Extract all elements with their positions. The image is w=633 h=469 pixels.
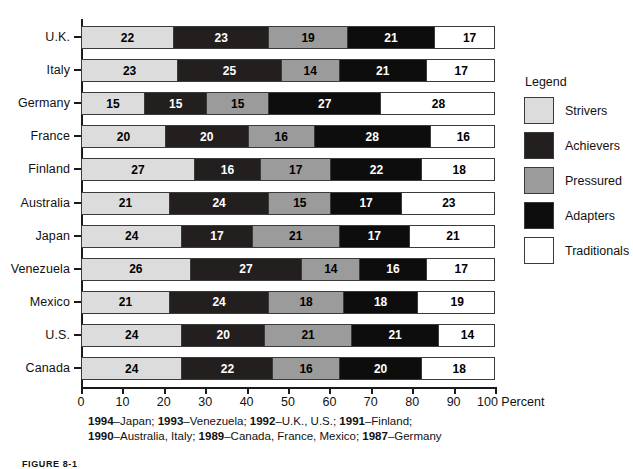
footnote-line-2: 1990–Australia, Italy; 1989–Canada, Fran…	[88, 429, 558, 444]
bar-segment-pressured: 16	[248, 126, 314, 147]
bar-segment-strivers: 21	[82, 193, 169, 214]
stacked-bar: 2420212114	[81, 324, 495, 347]
footnote-text: –Germany	[388, 430, 442, 442]
stacked-bar: 2422162018	[81, 357, 495, 380]
category-label: Germany	[18, 96, 70, 110]
bar-segment-achievers: 20	[181, 325, 264, 346]
stacked-bar: 2223192117	[81, 26, 495, 49]
bar-segment-traditionals: 18	[421, 358, 495, 379]
bar-segment-traditionals: 21	[409, 226, 495, 247]
footnote-text: –Australia, Italy;	[114, 430, 199, 442]
bar-segment-pressured: 17	[260, 159, 330, 180]
y-axis-tick	[74, 168, 81, 170]
category-label: Italy	[47, 63, 70, 77]
footnote-year: 1993	[158, 415, 184, 427]
y-axis-tick	[74, 102, 81, 104]
x-axis-tick-label: 40	[240, 395, 254, 409]
bar-segment-strivers: 15	[82, 93, 144, 114]
bar-segment-traditionals: 14	[438, 325, 495, 346]
bar-segment-pressured: 16	[272, 358, 338, 379]
stacked-bar: 2325142117	[81, 59, 495, 82]
bar-segment-adapters: 21	[351, 325, 438, 346]
bar-segment-adapters: 18	[343, 292, 418, 313]
x-axis-tick-label: 30	[198, 395, 212, 409]
stacked-bar: 2020162816	[81, 125, 495, 148]
bar-segment-adapters: 17	[339, 226, 409, 247]
bar-segment-strivers: 23	[82, 60, 177, 81]
bar-segment-adapters: 28	[314, 126, 430, 147]
bar-segment-strivers: 24	[82, 226, 181, 247]
x-axis-tick-label: 100 Percent	[477, 395, 544, 409]
x-axis-tick-label: 0	[78, 395, 85, 409]
category-label: France	[30, 129, 70, 143]
bar-segment-pressured: 21	[264, 325, 351, 346]
bar-segment-traditionals: 17	[426, 60, 495, 81]
footnote-text: –Japan;	[114, 415, 158, 427]
x-axis-tick	[247, 387, 249, 394]
y-axis-tick	[74, 235, 81, 237]
stacked-bar: 2124151723	[81, 192, 495, 215]
footnote-year: 1994	[88, 415, 114, 427]
bar-segment-adapters: 16	[359, 259, 425, 280]
bar-segment-pressured: 15	[206, 93, 268, 114]
bar-segment-traditionals: 17	[426, 259, 495, 280]
x-axis-tick-label: 80	[405, 395, 419, 409]
bar-segment-pressured: 18	[268, 292, 343, 313]
legend-swatch-strivers	[524, 97, 554, 124]
bar-segment-achievers: 15	[144, 93, 206, 114]
y-axis-tick	[74, 367, 81, 369]
bar-segment-achievers: 20	[165, 126, 248, 147]
footnote-text: –Venezuela;	[183, 415, 250, 427]
footnote: 1994–Japan; 1993–Venezuela; 1992–U.K., U…	[88, 414, 558, 444]
x-axis-tick	[164, 387, 166, 394]
bar-segment-strivers: 20	[82, 126, 165, 147]
bar-segment-traditionals: 16	[430, 126, 495, 147]
footnote-text: –U.K., U.S.;	[275, 415, 339, 427]
legend-item: Achievers	[524, 132, 632, 159]
x-axis-tick-label: 60	[322, 395, 336, 409]
bar-segment-achievers: 23	[173, 27, 268, 48]
bar-segment-traditionals: 28	[380, 93, 495, 114]
legend-swatch-pressured	[524, 167, 554, 194]
legend-swatch-traditionals	[524, 237, 554, 264]
bar-segment-traditionals: 17	[434, 27, 495, 48]
category-label: U.K.	[45, 30, 70, 44]
stacked-bar: 2627141617	[81, 258, 495, 281]
y-axis-tick	[74, 202, 81, 204]
legend-label: Pressured	[565, 174, 622, 188]
footnote-line-1: 1994–Japan; 1993–Venezuela; 1992–U.K., U…	[88, 414, 558, 429]
x-axis-tick-label: 10	[115, 395, 129, 409]
footnote-year: 1992	[250, 415, 276, 427]
category-label: Mexico	[30, 295, 70, 309]
y-axis-tick	[74, 69, 81, 71]
category-label: Finland	[28, 162, 70, 176]
bar-segment-pressured: 14	[301, 259, 359, 280]
legend-title: Legend	[524, 75, 632, 89]
x-axis-tick	[329, 387, 331, 394]
footnote-year: 1990	[88, 430, 114, 442]
bar-segment-strivers: 24	[82, 325, 181, 346]
bar-segment-traditionals: 23	[401, 193, 495, 214]
x-axis-tick	[205, 387, 207, 394]
bar-segment-pressured: 19	[268, 27, 347, 48]
legend-items-container: StriversAchieversPressuredAdaptersTradit…	[524, 97, 632, 264]
x-axis-tick	[495, 387, 497, 394]
category-label: U.S.	[45, 328, 70, 342]
legend-swatch-adapters	[524, 202, 554, 229]
legend-item: Traditionals	[524, 237, 632, 264]
bar-segment-strivers: 21	[82, 292, 169, 313]
y-axis-tick	[74, 301, 81, 303]
x-axis-tick	[412, 387, 414, 394]
footnote-year: 1989	[199, 430, 225, 442]
bar-segment-strivers: 27	[82, 159, 194, 180]
stacked-bar: 2716172218	[81, 158, 495, 181]
bar-segment-strivers: 22	[82, 27, 173, 48]
category-label: Canada	[26, 361, 70, 375]
x-axis-tick	[288, 387, 290, 394]
stacked-bar: 1515152728	[81, 92, 495, 115]
legend-label: Adapters	[565, 209, 615, 223]
bar-segment-achievers: 17	[181, 226, 251, 247]
stacked-bar: 2417211721	[81, 225, 495, 248]
x-axis-tick-label: 70	[364, 395, 378, 409]
bar-segment-adapters: 22	[330, 159, 421, 180]
